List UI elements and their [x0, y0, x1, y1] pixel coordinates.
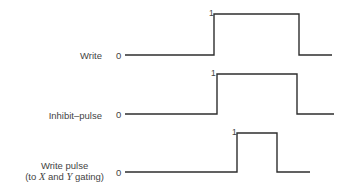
- write-waveform: [125, 14, 332, 55]
- inhibit-pulse-waveform: [125, 74, 334, 114]
- write-pulse-waveform: [125, 133, 310, 172]
- waveform-canvas: [0, 0, 347, 192]
